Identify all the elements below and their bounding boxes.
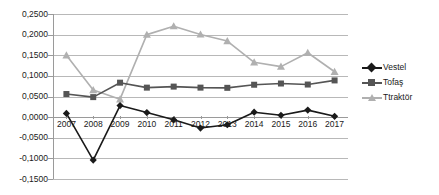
y-axis-tick (48, 14, 53, 15)
chart-legend: VestelTofaşTtraktör (362, 60, 439, 105)
data-point-marker (198, 85, 204, 91)
data-point-marker (224, 85, 230, 91)
data-point-marker (144, 85, 150, 91)
data-point-marker (90, 156, 97, 163)
series-tofaş (63, 77, 337, 100)
y-axis-tick (48, 97, 53, 98)
legend-label: Vestel (382, 63, 406, 72)
data-point-marker (331, 113, 338, 120)
data-point-marker (63, 91, 69, 97)
y-axis-tick (48, 55, 53, 56)
data-point-marker (143, 109, 150, 116)
data-point-marker (251, 109, 258, 116)
data-point-marker (278, 81, 284, 87)
legend-label: Ttraktör (382, 93, 412, 102)
data-point-marker (170, 116, 177, 123)
diamond-marker-icon (362, 62, 382, 74)
data-point-marker (251, 82, 257, 88)
y-axis-tick (48, 179, 53, 180)
legend-label: Tofaş (382, 78, 403, 87)
series-vestel (63, 102, 338, 164)
data-point-marker (304, 49, 312, 56)
data-point-marker (277, 112, 284, 119)
data-point-marker (224, 121, 231, 128)
data-point-marker (197, 124, 204, 131)
legend-item-ttraktör[interactable]: Ttraktör (362, 90, 439, 105)
data-point-marker (90, 94, 96, 100)
data-point-marker (116, 102, 123, 109)
data-point-marker (63, 110, 70, 117)
legend-item-tofaş[interactable]: Tofaş (362, 75, 439, 90)
data-point-marker (117, 80, 123, 86)
series-line (66, 106, 334, 160)
data-point-marker (332, 77, 338, 83)
data-point-marker (305, 82, 311, 88)
y-axis-tick (48, 117, 53, 118)
data-point-marker (62, 51, 70, 58)
data-point-marker (171, 84, 177, 90)
y-axis-tick (48, 76, 53, 77)
square-marker-icon (362, 77, 382, 89)
y-axis-tick (48, 158, 53, 159)
y-axis-tick (48, 138, 53, 139)
line-chart: 0,25000,20000,15000,10000,05000,0000-0,0… (0, 0, 439, 195)
data-point-marker (304, 107, 311, 114)
legend-item-vestel[interactable]: Vestel (362, 60, 439, 75)
y-axis-tick (48, 35, 53, 36)
data-point-marker (170, 22, 178, 29)
triangle-marker-icon (362, 92, 382, 104)
